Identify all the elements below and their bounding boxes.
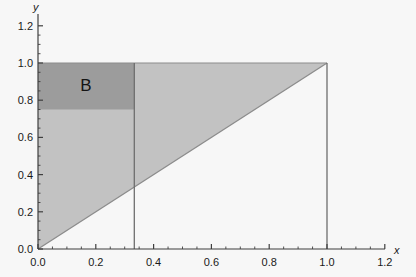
y-tick-label: 0.0 [2, 243, 33, 255]
y-tick-label: 0.2 [2, 206, 33, 218]
x-tick-label: 1.2 [377, 256, 392, 268]
plot-figure [0, 0, 416, 277]
x-tick-label: 0.6 [204, 256, 219, 268]
y-tick-label: 1.0 [2, 57, 33, 69]
y-tick-label: 0.8 [2, 94, 33, 106]
x-tick-label: 0.0 [30, 256, 45, 268]
x-tick-label: 1.0 [319, 256, 334, 268]
y-tick-label: 1.2 [2, 20, 33, 32]
y-tick-label: 0.4 [2, 169, 33, 181]
x-tick-label: 0.8 [262, 256, 277, 268]
x-tick-label: 0.2 [88, 256, 103, 268]
x-axis-label: x [394, 244, 400, 256]
y-axis-label: y [33, 1, 39, 13]
y-tick-label: 0.6 [2, 131, 33, 143]
region-b-label: B [80, 76, 91, 96]
x-tick-label: 0.4 [146, 256, 161, 268]
